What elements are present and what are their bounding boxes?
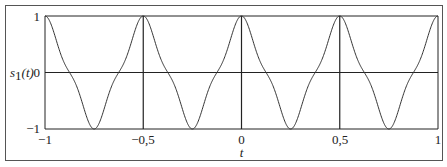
x-tick-1: 1 [435,132,442,147]
y-axis-label: s1(t) [10,65,34,83]
x-axis-label: t [240,145,244,160]
chart-svg: 1 0 −1 −1 −0,5 0 0,5 1 t s1(t) [0,0,447,167]
x-tick-minus-1: −1 [38,132,52,147]
x-tick-0-5: 0,5 [332,132,348,147]
x-tick-minus-0-5: −0,5 [131,132,155,147]
y-tick-1: 1 [34,9,41,24]
y-tick-0: 0 [34,65,41,80]
plot-area [45,16,438,129]
